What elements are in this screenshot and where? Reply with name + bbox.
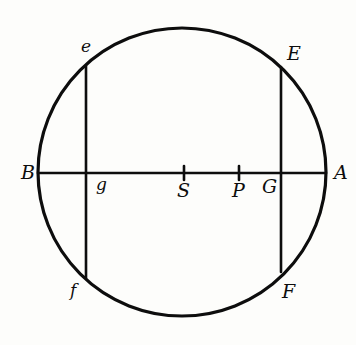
point-label-A: A: [334, 163, 348, 182]
point-label-e: e: [81, 38, 91, 55]
point-label-S: S: [177, 181, 190, 200]
point-label-g: g: [96, 176, 107, 193]
point-label-E: E: [287, 44, 301, 63]
figure-canvas: [0, 0, 356, 345]
point-label-F: F: [282, 282, 295, 301]
point-label-G: G: [262, 177, 277, 196]
point-label-B: B: [21, 163, 35, 182]
point-label-P: P: [232, 181, 245, 200]
point-label-f: f: [70, 282, 76, 299]
geometry-figure: BAeEfFgSPG: [0, 0, 356, 345]
shapes-layer: [38, 28, 326, 316]
